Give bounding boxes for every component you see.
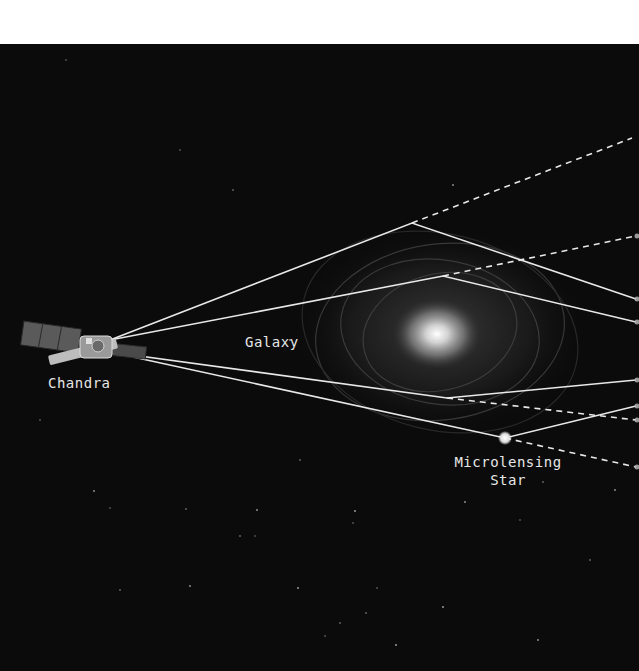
galaxy-core [392, 298, 482, 370]
galaxy [280, 203, 599, 461]
light-path-1-dashed [412, 138, 632, 223]
lensing-diagram [0, 44, 639, 671]
space-background: Chandra Galaxy Microlensing Star [0, 44, 639, 671]
satellite-icon [21, 321, 147, 365]
chandra-label: Chandra [48, 375, 111, 391]
microlensing-star [498, 431, 512, 445]
source-markers [635, 234, 639, 470]
top-margin [0, 0, 639, 44]
microlensing-label-line1: Microlensing [448, 454, 568, 470]
microlensing-label-line2: Star [448, 472, 568, 488]
galaxy-label: Galaxy [245, 334, 299, 350]
